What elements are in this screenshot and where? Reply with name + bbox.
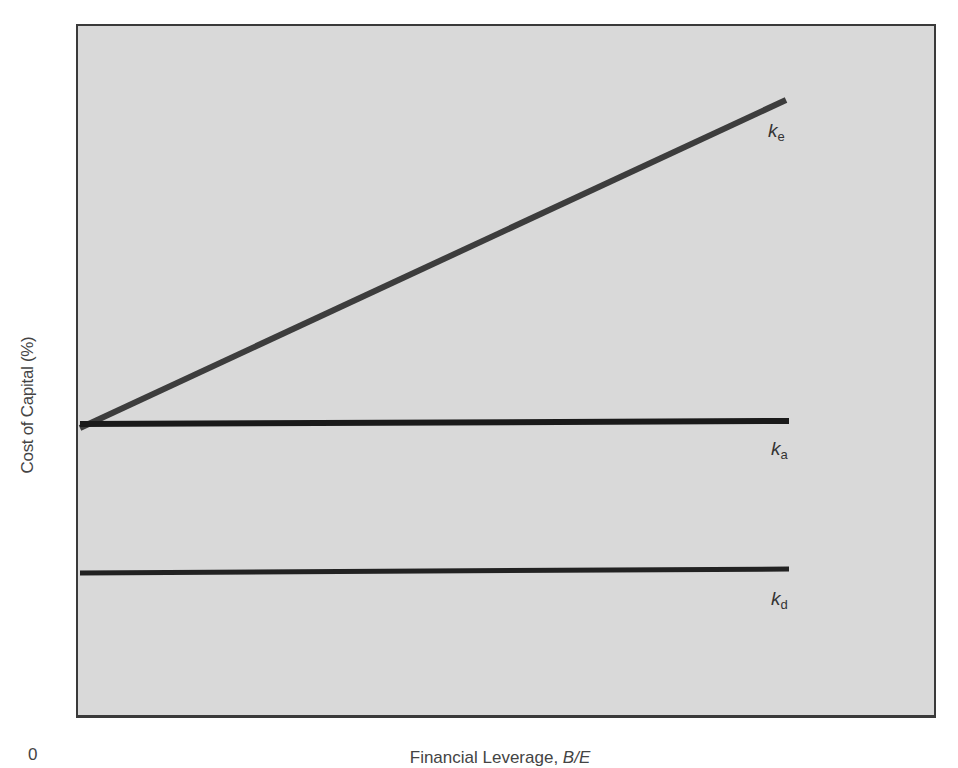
- ke-line: [80, 100, 786, 428]
- ka-label: ka: [771, 438, 788, 462]
- ka-line: [80, 421, 789, 424]
- ke-label: ke: [768, 120, 785, 144]
- kd-label: kd: [771, 588, 788, 612]
- kd-line: [80, 569, 789, 573]
- origin-label: 0: [28, 745, 37, 765]
- x-axis-label: Financial Leverage, B/E: [410, 748, 591, 768]
